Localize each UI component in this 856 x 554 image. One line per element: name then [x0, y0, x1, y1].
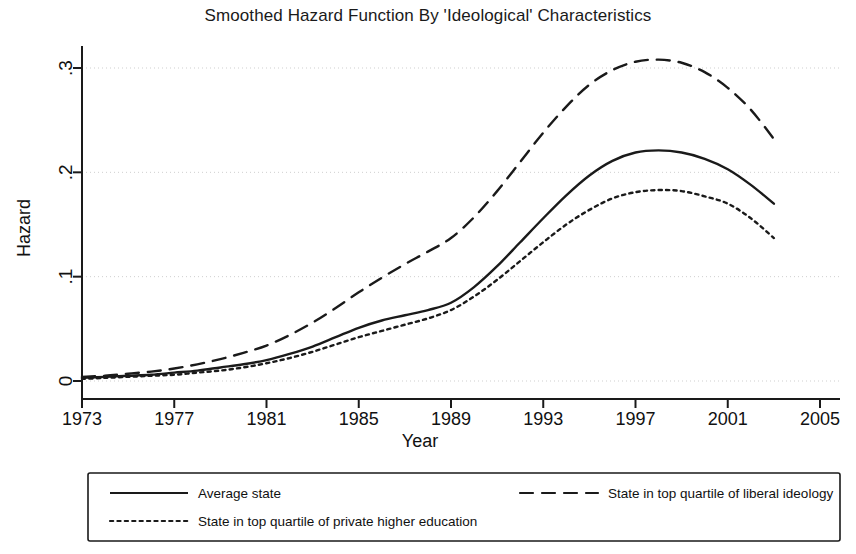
x-tick-label: 1989 — [431, 409, 471, 429]
y-tick-label: .3 — [55, 60, 76, 76]
x-tick-label: 1981 — [246, 409, 286, 429]
x-tick-label: 1973 — [62, 409, 102, 429]
x-axis-ticks: 197319771981198519891993199720012005 — [62, 399, 840, 429]
y-axis-ticks: 0.1.2.3 — [55, 60, 82, 386]
y-tick-label: 0 — [55, 376, 76, 387]
series-line-dashed — [82, 60, 774, 377]
x-tick-label: 1993 — [523, 409, 563, 429]
x-tick-label: 1997 — [615, 409, 655, 429]
x-tick-label: 1977 — [154, 409, 194, 429]
hazard-function-chart: 0.1.2.3 19731977198119851989199319972001… — [0, 0, 856, 554]
legend: Average stateState in top quartile of li… — [110, 486, 833, 529]
data-curves — [82, 60, 774, 379]
legend-label: State in top quartile of private higher … — [198, 514, 477, 529]
grid-lines — [82, 68, 840, 381]
x-axis-title: Year — [402, 431, 438, 451]
legend-label: State in top quartile of liberal ideolog… — [608, 486, 833, 501]
x-tick-label: 2005 — [800, 409, 840, 429]
x-tick-label: 1985 — [339, 409, 379, 429]
legend-box — [88, 473, 840, 541]
x-tick-label: 2001 — [708, 409, 748, 429]
hazard-function-figure: Smoothed Hazard Function By 'Ideological… — [0, 0, 856, 554]
legend-label: Average state — [198, 486, 281, 501]
series-line-solid — [82, 150, 774, 377]
y-tick-label: .2 — [55, 164, 76, 180]
y-axis-title: Hazard — [14, 199, 34, 257]
y-tick-label: .1 — [55, 269, 76, 285]
series-line-dotted — [82, 190, 774, 379]
